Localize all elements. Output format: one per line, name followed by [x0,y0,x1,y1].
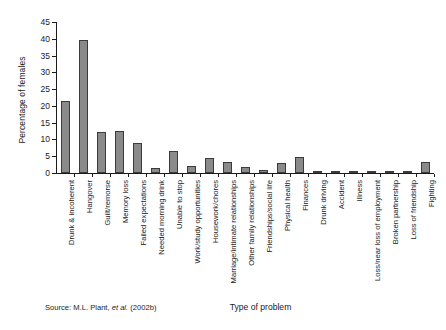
x-axis-category-label: Finances [302,180,310,211]
y-axis-tick [52,39,56,40]
x-axis-title: Type of problem [0,302,446,312]
x-axis-category-label: Loss of friendship [410,180,418,240]
x-axis-category-label: Accident [338,180,346,209]
x-axis-tick [236,174,237,177]
bar [241,167,250,173]
y-axis-tick-label: 20 [41,102,50,110]
x-axis-tick [182,174,183,177]
x-axis-tick [326,174,327,177]
bar [367,171,376,173]
x-axis-tick [110,174,111,177]
x-axis-tick [128,174,129,177]
bar [385,171,394,173]
x-axis-category-label: Housework/chores [212,180,220,243]
y-axis-tick [52,22,56,23]
bar-chart-figure: Percentage of females 051015202530354045… [0,0,446,330]
x-axis-category-label: Other family relationships [248,180,256,266]
bar [421,162,430,173]
y-axis-tick-label: 30 [41,68,50,76]
x-axis-category-labels: Drunk & incoherentHangoverGuilt/remorseM… [56,180,434,288]
x-axis-category-label: Broken partnership [392,180,400,244]
bars-layer [56,22,434,173]
y-axis-tick [52,56,56,57]
y-axis-tick-label: 5 [45,152,50,160]
bar [61,101,70,173]
bar [277,163,286,173]
x-axis-category-label: Drunk & incoherent [68,180,76,245]
bar [295,157,304,173]
x-axis-tick [362,174,363,177]
y-axis-tick [52,72,56,73]
x-axis-tick [272,174,273,177]
y-axis-tick-label: 40 [41,35,50,43]
x-axis-tick [344,174,345,177]
bar [151,168,160,173]
y-axis-title: Percentage of females [17,20,27,180]
x-axis-tick [416,174,417,177]
x-axis-category-label: Work/study opportunities [194,180,202,263]
y-axis-tick-label: 0 [45,169,50,177]
x-axis-tick [200,174,201,177]
x-axis-category-label: Guilt/remorse [104,180,112,226]
y-axis-tick-label: 35 [41,52,50,60]
y-axis-tick [52,156,56,157]
x-axis-tick [434,174,435,177]
plot-area: 051015202530354045 [56,22,434,174]
x-axis-category-label: Marriage/intimate relationships [230,180,238,283]
y-axis-tick [52,173,56,174]
bar [169,151,178,173]
bar [79,40,88,173]
y-axis-tick-label: 25 [41,85,50,93]
bar [223,162,232,173]
x-axis-tick [308,174,309,177]
x-axis-tick [290,174,291,177]
x-axis-category-label: Drunk driving [320,180,328,225]
x-axis-category-label: Memory loss [122,180,130,223]
x-axis-line [56,173,434,174]
x-axis-category-label: Illness [356,180,364,202]
bar [97,132,106,173]
x-axis-tick [254,174,255,177]
x-axis-category-label: Needed morning drink [158,180,166,255]
bar [313,171,322,173]
x-axis-tick [380,174,381,177]
x-axis-tick [218,174,219,177]
x-axis-tick [398,174,399,177]
x-axis-category-label: Friendships/social life [266,180,274,253]
bar [115,131,124,173]
x-axis-tick [164,174,165,177]
x-axis-tick [74,174,75,177]
bar [205,158,214,173]
bar [349,171,358,173]
y-axis-tick [52,139,56,140]
x-axis-category-label: Physical health [284,180,292,231]
x-axis-tick [146,174,147,177]
y-axis-tick-label: 15 [41,119,50,127]
y-axis-tick-label: 10 [41,135,50,143]
x-axis-category-label: Loss/near loss of employment [374,180,382,281]
x-axis-category-label: Unable to stop [176,180,184,229]
y-axis-tick [52,123,56,124]
x-axis-tick [92,174,93,177]
y-axis-tick [52,89,56,90]
bar [259,170,268,173]
bar [187,166,196,173]
x-axis-category-label: Fighting [428,180,436,207]
x-axis-category-label: Failed expectations [140,180,148,245]
bar [133,143,142,173]
y-axis-tick-label: 45 [41,18,50,26]
bar [403,171,412,173]
bar [331,171,340,173]
x-axis-category-label: Hangover [86,180,94,213]
y-axis-tick [52,106,56,107]
